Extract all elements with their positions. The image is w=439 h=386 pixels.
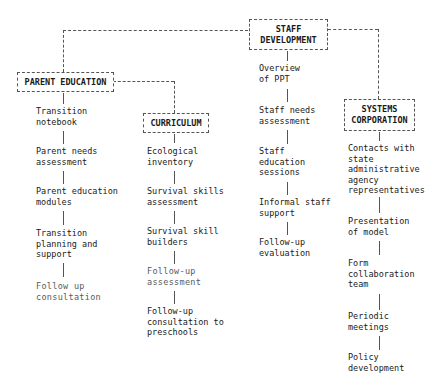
list-item: Survival skills assessment [147, 186, 224, 207]
branch-systems-corporation: SYSTEMS CORPORATION [344, 99, 415, 131]
list-item: Parent education modules [36, 186, 118, 207]
connector [63, 211, 64, 225]
list-item: Contacts with state administrative agenc… [348, 143, 425, 196]
list-item: Transition planning and support [36, 228, 97, 260]
list-item: Staff education sessions [259, 146, 305, 178]
connector [63, 171, 64, 184]
list-item: Overview of PPT [259, 63, 300, 84]
list-item: Follow-up evaluation [259, 237, 310, 258]
list-item: Parent needs assessment [36, 146, 97, 167]
branch-parent-education: PARENT EDUCATION [17, 72, 114, 92]
connector-to-systems [378, 29, 379, 99]
connector [63, 263, 64, 277]
connector [287, 51, 288, 61]
connector [174, 171, 175, 184]
list-item: Follow up consultation [36, 281, 101, 302]
connector [174, 251, 175, 264]
connector [379, 132, 380, 141]
list-item: Follow-up assessment [147, 266, 201, 287]
connector [287, 130, 288, 144]
connector [379, 294, 380, 310]
connector [63, 131, 64, 144]
connector [379, 336, 380, 350]
connector [379, 241, 380, 255]
branch-curriculum: CURRICULUM [143, 113, 209, 133]
connector [174, 211, 175, 224]
connector [174, 134, 175, 143]
list-item: Presentation of model [348, 216, 409, 237]
connector [287, 182, 288, 195]
list-item: Informal staff support [259, 197, 331, 218]
list-item: Transition notebook [36, 106, 87, 127]
connector [379, 197, 380, 213]
connector-pe-curriculum [113, 81, 174, 82]
connector [63, 93, 64, 104]
list-item: Form collaboration team [348, 258, 415, 290]
list-item: Staff needs assessment [259, 105, 315, 126]
connector-to-curriculum [174, 81, 175, 113]
connector-root-right [328, 29, 378, 30]
connector-root-left [63, 30, 248, 31]
connector [287, 222, 288, 235]
list-item: Survival skill builders [147, 226, 219, 247]
connector-to-parent-education [63, 30, 64, 72]
list-item: Policy development [348, 352, 404, 373]
list-item: Periodic meetings [348, 311, 389, 332]
list-item: Follow-up consultation to preschools [147, 306, 224, 338]
list-item: Ecological inventory [147, 146, 198, 167]
connector [174, 291, 175, 304]
connector [287, 89, 288, 102]
root-node-staff-development: STAFF DEVELOPMENT [249, 19, 328, 50]
